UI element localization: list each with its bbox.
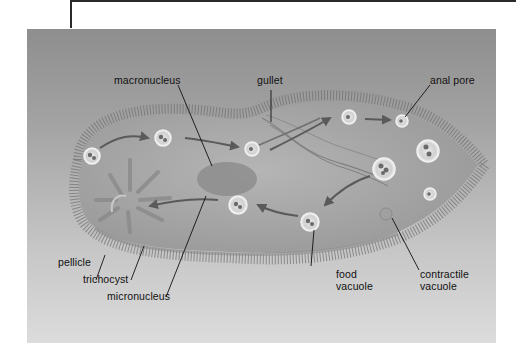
label-gullet: gullet	[257, 74, 283, 86]
label-trichocyst: trichocyst	[83, 273, 128, 285]
paramecium-illustration	[0, 0, 523, 356]
label-pellicle: pellicle	[58, 256, 91, 268]
label-micronucleus: micronucleus	[107, 290, 170, 302]
label-contractile-vacuole-line1: contractile	[420, 268, 469, 280]
label-food-vacuole-line2: vacuole	[336, 280, 373, 292]
macronucleus	[197, 162, 257, 196]
label-food-vacuole-line1: food	[336, 268, 357, 280]
label-contractile-vacuole-line2: vacuole	[420, 280, 457, 292]
label-macronucleus: macronucleus	[114, 74, 181, 86]
contractile-vacuole-right	[380, 208, 392, 220]
label-anal-pore: anal pore	[430, 74, 475, 86]
